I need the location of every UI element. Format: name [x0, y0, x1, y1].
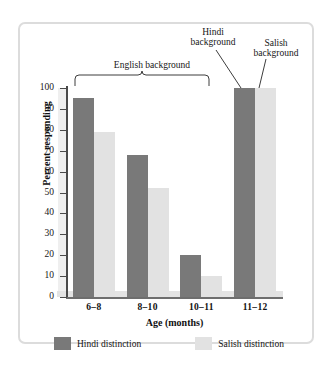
annotation-salish-line2: background [254, 48, 299, 58]
bar-salish[interactable] [148, 188, 169, 297]
x-tick-label: 11–12 [223, 302, 287, 312]
y-tick-label: 30 [0, 229, 58, 239]
bar-hindi[interactable] [234, 88, 255, 297]
y-tick-label: 90 [0, 104, 58, 114]
y-tick-mark [60, 88, 67, 89]
y-tick-label: 10 [0, 271, 58, 281]
y-tick-mark [60, 255, 67, 256]
y-tick-mark [60, 151, 67, 152]
bar-group [73, 88, 115, 297]
y-tick-label: 20 [0, 250, 58, 260]
y-tick-mark [60, 213, 67, 214]
bar-group [234, 88, 276, 297]
y-tick-label: 40 [0, 208, 58, 218]
y-tick-label: 60 [0, 167, 58, 177]
y-tick-label: 100 [0, 83, 58, 93]
y-tick-mark [60, 276, 67, 277]
y-axis-title: Percent responding [41, 84, 52, 204]
annotation-salish-background: Salish background [243, 38, 309, 59]
annotation-hindi-background: Hindi background [182, 27, 244, 48]
bar-group [127, 88, 169, 297]
bar-salish[interactable] [94, 132, 115, 297]
x-axis-line [66, 297, 283, 299]
legend-label: Salish distinction [218, 339, 284, 349]
chart-legend: Hindi distinctionSalish distinction [54, 337, 284, 350]
annotation-salish-line1: Salish [264, 38, 287, 48]
y-tick-label: 50 [0, 188, 58, 198]
plot-area [67, 88, 282, 297]
y-tick-label: 80 [0, 125, 58, 135]
x-axis-title: Age (months) [67, 317, 282, 328]
bar-salish[interactable] [255, 88, 276, 297]
y-tick-mark [60, 193, 67, 194]
legend-label: Hindi distinction [77, 339, 141, 349]
annotation-hindi-line2: background [191, 37, 236, 47]
chart-figure: Percent responding 010203040506070809010… [0, 0, 332, 389]
bar-salish[interactable] [201, 276, 222, 297]
bar-hindi[interactable] [180, 255, 201, 297]
y-tick-mark [60, 234, 67, 235]
legend-swatch [54, 337, 71, 350]
y-tick-label: 70 [0, 146, 58, 156]
annotation-english-background: English background [92, 60, 212, 70]
y-tick-mark [60, 297, 67, 298]
annotation-hindi-line1: Hindi [202, 27, 224, 37]
y-tick-label: 0 [0, 292, 58, 302]
legend-swatch [195, 337, 212, 350]
y-tick-mark [60, 130, 67, 131]
bar-hindi[interactable] [127, 155, 148, 297]
bar-hindi[interactable] [73, 98, 94, 297]
y-tick-mark [60, 172, 67, 173]
legend-item[interactable]: Hindi distinction [54, 337, 141, 350]
bar-group [180, 88, 222, 297]
legend-item[interactable]: Salish distinction [195, 337, 284, 350]
y-tick-mark [60, 109, 67, 110]
